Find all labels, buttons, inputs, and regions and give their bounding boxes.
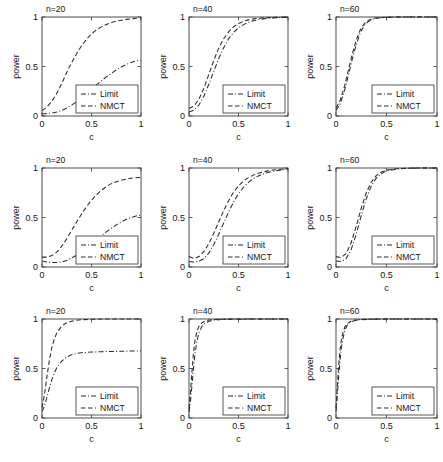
- x-tick-label: 0.5: [85, 270, 98, 280]
- panel-title: n=60: [340, 306, 360, 316]
- x-tick-label: 0: [333, 421, 338, 431]
- y-axis-label: power: [11, 205, 21, 230]
- y-tick-label: 1: [327, 12, 332, 22]
- y-axis-label: power: [305, 205, 315, 230]
- x-tick-label: 0: [39, 119, 44, 129]
- y-tick-label: 0.5: [319, 213, 332, 223]
- y-tick-label: 0: [180, 413, 185, 423]
- legend-label-nmct: NMCT: [247, 403, 273, 413]
- legend-label-limit: Limit: [247, 89, 266, 99]
- y-tick-label: 0: [327, 413, 332, 423]
- panel-title: n=60: [340, 4, 360, 14]
- y-tick-label: 0.5: [25, 62, 38, 72]
- legend-label-nmct: NMCT: [247, 252, 273, 262]
- y-tick-label: 1: [180, 163, 185, 173]
- legend-label-limit: Limit: [100, 89, 119, 99]
- legend-label-nmct: NMCT: [100, 101, 126, 111]
- y-tick-label: 1: [327, 314, 332, 324]
- y-tick-label: 0.5: [172, 364, 185, 374]
- legend-label-nmct: NMCT: [396, 101, 422, 111]
- x-axis-label: c: [384, 283, 389, 293]
- y-tick-label: 1: [327, 163, 332, 173]
- x-tick-label: 1: [434, 119, 439, 129]
- x-tick-label: 0: [186, 270, 191, 280]
- legend-label-limit: Limit: [396, 391, 415, 401]
- y-tick-label: 0: [180, 262, 185, 272]
- x-tick-label: 0.5: [232, 119, 245, 129]
- y-axis-label: power: [11, 356, 21, 381]
- y-tick-label: 1: [180, 314, 185, 324]
- x-tick-label: 0.5: [232, 270, 245, 280]
- y-tick-label: 1: [33, 163, 38, 173]
- x-tick-label: 0: [186, 119, 191, 129]
- x-tick-label: 0.5: [85, 421, 98, 431]
- x-tick-label: 1: [434, 421, 439, 431]
- y-tick-label: 0.5: [319, 62, 332, 72]
- y-tick-label: 0: [327, 111, 332, 121]
- legend-label-limit: Limit: [396, 240, 415, 250]
- y-tick-label: 0.5: [25, 364, 38, 374]
- x-tick-label: 1: [138, 270, 143, 280]
- x-tick-label: 0.5: [85, 119, 98, 129]
- panel-title: n=40: [193, 4, 213, 14]
- x-tick-label: 1: [138, 421, 143, 431]
- y-axis-label: power: [158, 356, 168, 381]
- x-axis-label: c: [89, 132, 94, 142]
- legend-label-nmct: NMCT: [100, 403, 126, 413]
- y-axis-label: power: [305, 356, 315, 381]
- plot-panel-r3c3: n=6000.5100.51cpowerLimitNMCT: [294, 302, 443, 462]
- y-tick-label: 0: [33, 413, 38, 423]
- plot-panel-r1c1: n=2000.5100.51cpowerLimitNMCT: [0, 0, 147, 151]
- legend-label-nmct: NMCT: [396, 252, 422, 262]
- y-tick-label: 1: [33, 314, 38, 324]
- panel-title: n=20: [46, 306, 66, 316]
- plot-panel-r2c2: n=4000.5100.51cpowerLimitNMCT: [147, 151, 294, 302]
- y-tick-label: 0.5: [25, 213, 38, 223]
- panel-title: n=20: [46, 155, 66, 165]
- x-tick-label: 0.5: [232, 421, 245, 431]
- x-tick-label: 1: [285, 119, 290, 129]
- x-axis-label: c: [384, 132, 389, 142]
- x-tick-label: 1: [285, 421, 290, 431]
- plot-panel-r2c3: n=6000.5100.51cpowerLimitNMCT: [294, 151, 443, 302]
- plot-panel-r3c2: n=4000.5100.51cpowerLimitNMCT: [147, 302, 294, 462]
- x-tick-label: 0: [39, 421, 44, 431]
- x-tick-label: 1: [138, 119, 143, 129]
- legend-label-nmct: NMCT: [247, 101, 273, 111]
- x-axis-label: c: [236, 132, 241, 142]
- y-tick-label: 0.5: [172, 62, 185, 72]
- legend-label-limit: Limit: [396, 89, 415, 99]
- y-axis-label: power: [11, 54, 21, 79]
- x-tick-label: 0: [333, 270, 338, 280]
- plot-panel-r1c2: n=4000.5100.51cpowerLimitNMCT: [147, 0, 294, 151]
- x-tick-label: 0.5: [380, 119, 393, 129]
- x-tick-label: 0.5: [380, 270, 393, 280]
- y-tick-label: 0: [33, 111, 38, 121]
- panel-title: n=40: [193, 306, 213, 316]
- x-axis-label: c: [236, 434, 241, 444]
- y-tick-label: 0: [180, 111, 185, 121]
- legend-label-nmct: NMCT: [396, 403, 422, 413]
- legend-label-limit: Limit: [247, 391, 266, 401]
- x-axis-label: c: [384, 434, 389, 444]
- x-tick-label: 1: [434, 270, 439, 280]
- legend-label-limit: Limit: [247, 240, 266, 250]
- power-curve-figure: n=2000.5100.51cpowerLimitNMCTn=4000.5100…: [0, 0, 443, 462]
- y-tick-label: 1: [180, 12, 185, 22]
- y-axis-label: power: [158, 205, 168, 230]
- y-tick-label: 1: [33, 12, 38, 22]
- y-tick-label: 0: [33, 262, 38, 272]
- x-tick-label: 0: [186, 421, 191, 431]
- legend-label-limit: Limit: [100, 240, 119, 250]
- legend-label-nmct: NMCT: [100, 252, 126, 262]
- panel-title: n=20: [46, 4, 66, 14]
- plot-panel-r2c1: n=2000.5100.51cpowerLimitNMCT: [0, 151, 147, 302]
- plot-panel-r1c3: n=6000.5100.51cpowerLimitNMCT: [294, 0, 443, 151]
- x-axis-label: c: [89, 283, 94, 293]
- y-tick-label: 0.5: [319, 364, 332, 374]
- x-axis-label: c: [89, 434, 94, 444]
- panel-title: n=40: [193, 155, 213, 165]
- legend-label-limit: Limit: [100, 391, 119, 401]
- x-tick-label: 1: [285, 270, 290, 280]
- y-axis-label: power: [305, 54, 315, 79]
